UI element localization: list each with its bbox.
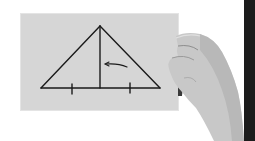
photo-scene: [0, 0, 255, 141]
triangle-diagram: [0, 0, 255, 141]
triangle-right-side: [100, 26, 160, 88]
hand: [168, 33, 244, 141]
triangle-left-side: [41, 26, 100, 88]
dark-edge: [244, 0, 255, 141]
